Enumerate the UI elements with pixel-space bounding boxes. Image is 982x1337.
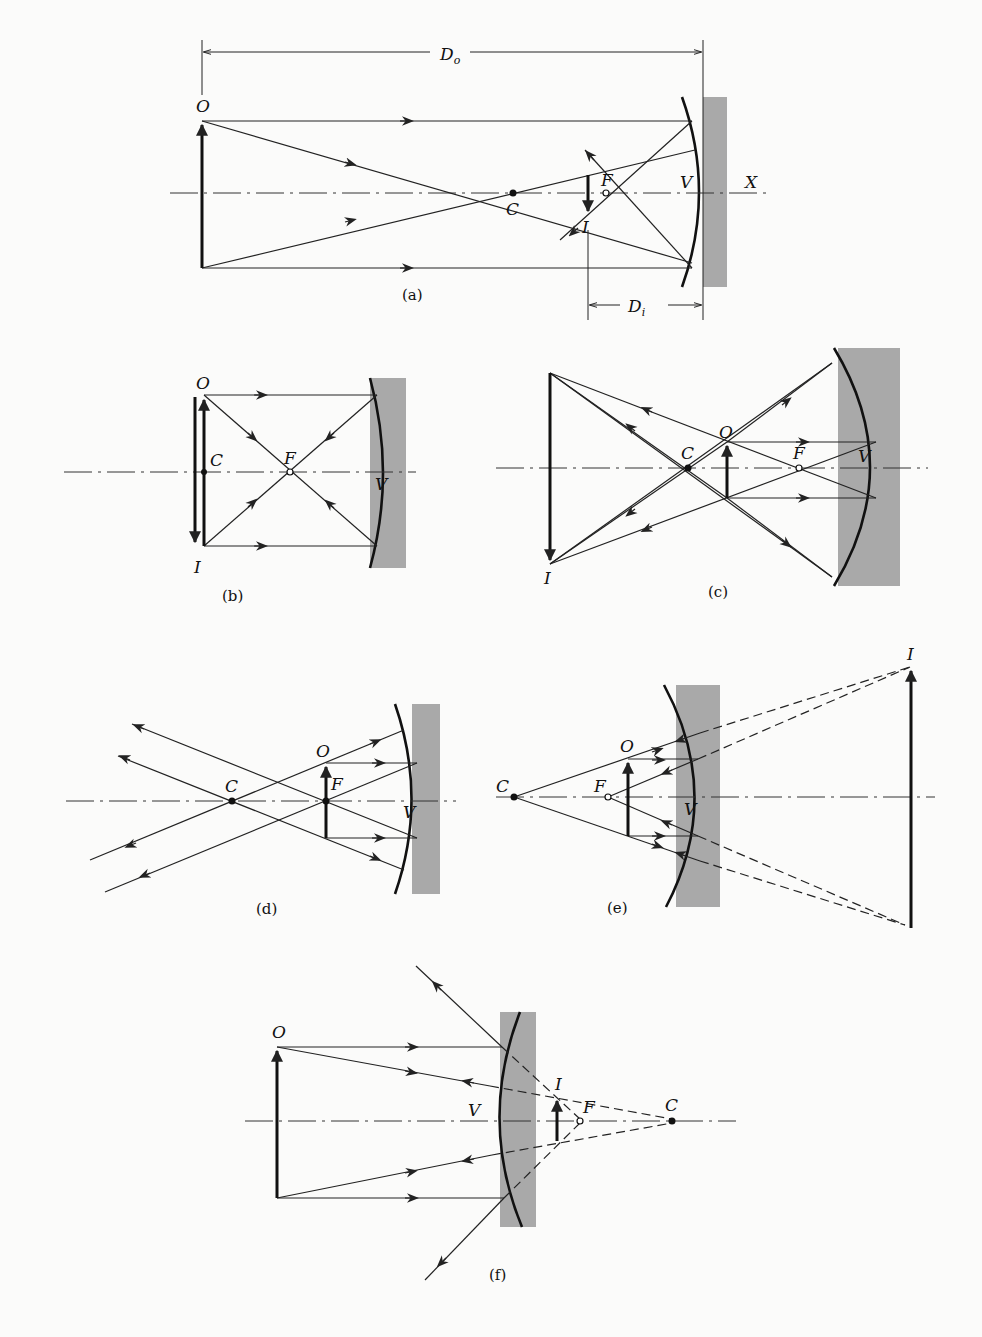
ray [550, 373, 876, 498]
label-image-distance: Di [627, 296, 645, 319]
caption-e: (e) [607, 899, 628, 917]
mirror-ray-diagrams: O C F I V X Do Di (a) O C F V I (b) [0, 0, 982, 1337]
ray [277, 1047, 490, 1086]
virtual-ray [698, 836, 905, 925]
panel-f: O I F C V (f) [245, 966, 736, 1284]
label-vertex: V [375, 474, 389, 494]
label-object: O [620, 736, 634, 756]
label-center: C [681, 443, 694, 463]
ray-arrow [666, 770, 672, 773]
caption-d: (d) [256, 900, 277, 918]
focal-point [323, 798, 330, 805]
virtual-ray [700, 861, 905, 925]
label-focus: F [600, 170, 614, 190]
label-vertex: V [858, 446, 872, 466]
label-vertex: V [680, 172, 694, 192]
label-focus: F [593, 776, 607, 796]
label-center: C [506, 199, 519, 219]
virtual-ray [700, 667, 910, 733]
ray-arrow [782, 401, 787, 405]
ray [105, 763, 417, 892]
ray [90, 730, 404, 860]
ray-arrow [329, 433, 334, 438]
ray-arrow [248, 503, 253, 508]
label-image: I [554, 1074, 562, 1094]
ray-arrow [630, 509, 635, 513]
label-object-distance: Do [439, 44, 461, 67]
center-point [201, 469, 207, 475]
ray [560, 121, 692, 240]
label-object: O [196, 96, 210, 116]
label-center: C [225, 776, 238, 796]
caption-b: (b) [222, 587, 243, 605]
virtual-ray [698, 667, 910, 759]
label-center: C [496, 776, 509, 796]
focal-point [287, 469, 293, 475]
ray-arrow [248, 433, 253, 438]
panel-c: O C F V I (c) [496, 348, 928, 601]
label-center: C [210, 450, 223, 470]
ray [514, 733, 700, 797]
label-focus: F [283, 448, 297, 468]
label-object: O [316, 741, 330, 761]
ray [585, 150, 692, 268]
ray-arrow [436, 985, 441, 990]
focal-point [796, 465, 802, 471]
mirror-backing [703, 97, 727, 287]
label-vertex: V [684, 799, 698, 819]
center-point [685, 465, 692, 472]
mirror-backing [412, 704, 440, 894]
ray-arrow [370, 742, 376, 745]
focal-point [603, 190, 609, 196]
ray [416, 966, 502, 1047]
label-image: I [581, 217, 589, 237]
ray-arrow [345, 221, 351, 223]
ray-arrow [589, 155, 594, 161]
center-point [669, 1118, 676, 1125]
label-object: O [719, 422, 733, 442]
ray-arrow [652, 750, 658, 752]
concave-mirror [682, 97, 699, 287]
ray-arrow [345, 162, 351, 164]
ray [550, 363, 832, 564]
label-focus: F [330, 774, 344, 794]
caption-c: (c) [708, 583, 728, 601]
ray [550, 442, 876, 564]
center-point [511, 794, 518, 801]
ray-arrow [441, 1258, 446, 1263]
focal-point [605, 794, 611, 800]
label-vertex: V [468, 1100, 482, 1120]
panel-b: O C F V I (b) [64, 373, 416, 605]
center-point [229, 798, 236, 805]
ray-arrow [329, 504, 334, 509]
ray [202, 121, 692, 263]
label-image: I [193, 557, 201, 577]
center-point [510, 190, 517, 197]
label-object: O [196, 373, 210, 393]
mirror-backing [676, 685, 720, 907]
caption-f: (f) [489, 1266, 506, 1284]
ray [118, 756, 404, 870]
label-focus: F [582, 1097, 596, 1117]
label-object: O [272, 1022, 286, 1042]
ray [514, 797, 700, 861]
ray-arrow [467, 1082, 474, 1083]
ray [277, 1155, 492, 1198]
label-axis-end: X [743, 172, 758, 192]
focal-point [577, 1118, 583, 1124]
label-focus: F [792, 443, 806, 463]
label-image: I [543, 568, 551, 588]
label-image: I [906, 644, 914, 664]
label-center: C [665, 1095, 678, 1115]
ray [550, 373, 832, 577]
caption-a: (a) [402, 286, 423, 304]
panel-e: O C F V I (e) [496, 644, 935, 928]
ray [202, 150, 695, 268]
panel-d: O C F V (d) [66, 704, 456, 918]
panel-a: O C F I V X Do Di (a) [170, 40, 770, 320]
label-vertex: V [403, 802, 417, 822]
